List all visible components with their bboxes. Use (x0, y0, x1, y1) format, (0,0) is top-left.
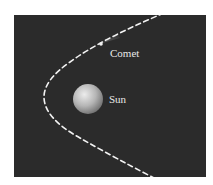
comet-tail (102, 34, 120, 43)
comet-dot (99, 42, 103, 46)
parabolic-orbit-path (44, 15, 164, 177)
comet-label: Comet (110, 48, 139, 59)
sun-sphere (73, 84, 103, 114)
sun-label: Sun (109, 94, 126, 105)
diagram-panel: Comet Sun (14, 15, 206, 177)
